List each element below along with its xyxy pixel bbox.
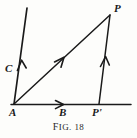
ray-ac-segment xyxy=(14,8,27,104)
vector-diagram xyxy=(0,0,137,138)
figure-caption: FIG. 18 xyxy=(0,121,137,132)
figure-container: A B C P P' FIG. 18 xyxy=(0,0,137,138)
vertex-label-c: C xyxy=(5,63,12,74)
arrowhead-ac-icon xyxy=(17,60,26,70)
vertex-label-p: P xyxy=(114,3,121,14)
vertex-label-p-prime: P' xyxy=(92,107,102,118)
vertex-label-a: A xyxy=(9,107,16,118)
ray-ap-segment xyxy=(14,15,110,104)
caption-number: . 18 xyxy=(69,122,84,132)
caption-rest: IG xyxy=(59,122,69,132)
vertex-label-b: B xyxy=(59,107,66,118)
